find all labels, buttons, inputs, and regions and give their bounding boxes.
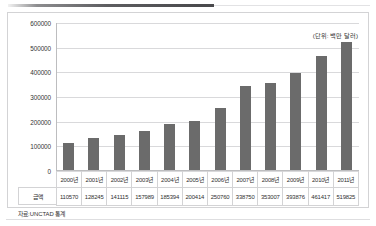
table-row-values: 1105701282451411151579891853942004142507… bbox=[57, 188, 359, 206]
table-year-cell: 2005년 bbox=[182, 171, 207, 188]
top-divider-rule-tail bbox=[214, 5, 370, 6]
bar-2009년 bbox=[290, 73, 301, 170]
table-year-cell: 2008년 bbox=[258, 171, 283, 188]
table-value-cell: 250760 bbox=[207, 188, 232, 206]
y-tick-label-100000: 100000 bbox=[30, 143, 51, 150]
chart-figure: 0100000200000300000400000500000600000 (단… bbox=[7, 12, 369, 208]
table-year-cell: 2007년 bbox=[233, 171, 258, 188]
bar-2007년 bbox=[240, 86, 251, 170]
table-value-cell: 128245 bbox=[82, 188, 107, 206]
y-tick-label-400000: 400000 bbox=[30, 69, 51, 76]
unit-annotation: (단위: 백만 달러) bbox=[313, 31, 358, 40]
table-value-cell: 110570 bbox=[57, 188, 82, 206]
chart-screenshot: 0100000200000300000400000500000600000 (단… bbox=[0, 0, 376, 226]
table-value-cell: 461417 bbox=[308, 188, 333, 206]
table-year-cell: 2000년 bbox=[57, 171, 82, 188]
table-year-cell: 2003년 bbox=[132, 171, 157, 188]
bar-2003년 bbox=[139, 131, 150, 170]
bar-2001년 bbox=[88, 138, 99, 170]
y-tick-label-600000: 600000 bbox=[30, 20, 51, 27]
table-header-spacer bbox=[18, 171, 56, 187]
y-tick-label-300000: 300000 bbox=[30, 94, 51, 101]
bar-series bbox=[56, 23, 359, 171]
table-value-cell: 519825 bbox=[333, 188, 358, 206]
table-year-cell: 2006년 bbox=[207, 171, 232, 188]
table-value-cell: 200414 bbox=[182, 188, 207, 206]
table-row-header-label: 금액 bbox=[18, 187, 56, 205]
bottom-divider-rule bbox=[6, 219, 370, 220]
bar-2011년 bbox=[341, 42, 352, 170]
data-table: 2000년2001년2002년2003년2004년2005년2006년2007년… bbox=[56, 171, 359, 205]
source-note: 자료:UNCTAD 통계 bbox=[18, 209, 65, 218]
table-year-cell: 2010년 bbox=[308, 171, 333, 188]
table-value-cell: 338750 bbox=[233, 188, 258, 206]
y-tick-label-200000: 200000 bbox=[30, 118, 51, 125]
bar-2005년 bbox=[189, 121, 200, 170]
table-year-cell: 2011년 bbox=[333, 171, 358, 188]
bar-2000년 bbox=[63, 143, 74, 170]
bar-2010년 bbox=[316, 56, 327, 170]
table-row-years: 2000년2001년2002년2003년2004년2005년2006년2007년… bbox=[57, 171, 359, 188]
bar-2002년 bbox=[114, 135, 125, 170]
bar-2006년 bbox=[215, 108, 226, 170]
top-divider-rule bbox=[8, 4, 214, 7]
bar-2004년 bbox=[164, 124, 175, 170]
table-value-cell: 353007 bbox=[258, 188, 283, 206]
table-value-cell: 141115 bbox=[107, 188, 132, 206]
table-row-header-block: 금액 bbox=[18, 171, 56, 205]
bar-2008년 bbox=[265, 83, 276, 170]
table-year-cell: 2009년 bbox=[283, 171, 308, 188]
y-axis-labels: 0100000200000300000400000500000600000 bbox=[8, 23, 54, 171]
y-tick-label-500000: 500000 bbox=[30, 44, 51, 51]
table-value-cell: 157989 bbox=[132, 188, 157, 206]
table-year-cell: 2001년 bbox=[82, 171, 107, 188]
table-value-cell: 185394 bbox=[157, 188, 182, 206]
table-year-cell: 2002년 bbox=[107, 171, 132, 188]
table-value-cell: 393876 bbox=[283, 188, 308, 206]
plot-area bbox=[56, 23, 359, 171]
table-year-cell: 2004년 bbox=[157, 171, 182, 188]
